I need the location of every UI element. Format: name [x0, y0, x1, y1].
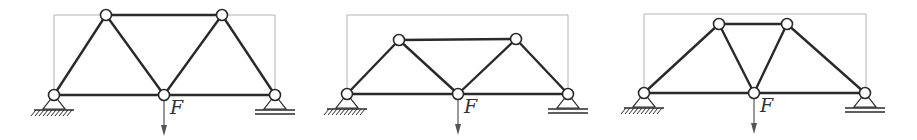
member-bottom-center-to-top-right [458, 39, 516, 94]
joint-top-right [511, 34, 522, 45]
joint-left-support [342, 89, 353, 100]
joint-top-left [394, 35, 405, 46]
joint-bottom-center [749, 88, 760, 99]
joint-top-right [217, 10, 228, 21]
joint-right-support [270, 90, 281, 101]
joint-left-support [639, 88, 650, 99]
load-label: F [759, 94, 774, 116]
member-left-support-to-top-left [54, 15, 106, 95]
member-left-support-to-top-left [347, 40, 399, 94]
joint-right-support [860, 88, 871, 99]
bounding-box-outline [54, 15, 275, 95]
bounding-box-outline [347, 15, 568, 94]
truss-2: F [324, 15, 588, 135]
member-top-right-to-right-support [516, 39, 568, 94]
member-bottom-center-to-top-right [754, 24, 787, 93]
member-top-left-to-bottom-center [399, 40, 458, 94]
truss-1: F [31, 10, 295, 137]
joint-bottom-center [453, 89, 464, 100]
load-arrow-icon [455, 100, 461, 135]
joint-top-right [782, 19, 793, 30]
member-bottom-center-to-top-right [164, 15, 222, 95]
joint-right-support [563, 89, 574, 100]
load-label: F [463, 95, 478, 117]
member-left-support-to-top-left [644, 24, 719, 93]
load-label: F [169, 96, 184, 118]
truss-3: F [621, 14, 885, 134]
truss-diagram: FFF [0, 0, 917, 140]
member-top-right-to-right-support [222, 15, 275, 95]
joint-bottom-center [159, 90, 170, 101]
load-arrow-icon [161, 101, 167, 136]
joint-left-support [49, 90, 60, 101]
member-top-right-to-right-support [787, 24, 865, 93]
load-arrow-icon [751, 99, 757, 134]
member-top-left-to-bottom-center [106, 15, 164, 95]
bounding-box-outline [644, 14, 866, 93]
joint-top-left [714, 19, 725, 30]
joint-top-left [101, 10, 112, 21]
member-top-left-to-top-right [399, 39, 516, 40]
member-top-left-to-bottom-center [719, 24, 754, 93]
